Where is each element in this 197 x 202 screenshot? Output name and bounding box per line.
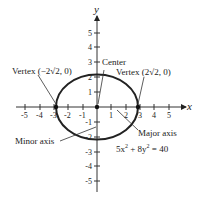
- x-axis-label: x: [186, 100, 192, 112]
- center-point: [95, 105, 99, 109]
- svg-text:1: 1: [88, 88, 92, 97]
- x-tick-labels: -5 -4 -3 -2 -1 1 2 3 4 5: [21, 111, 171, 120]
- center-label: Center: [102, 57, 126, 67]
- svg-text:-4: -4: [36, 111, 43, 120]
- svg-text:-4: -4: [85, 162, 92, 171]
- minor-axis-label: Minor axis: [15, 136, 55, 146]
- svg-text:-2: -2: [64, 111, 71, 120]
- svg-text:-5: -5: [21, 111, 28, 120]
- svg-text:1: 1: [109, 111, 113, 120]
- equation-label: 5x2 + 8y2 = 40: [116, 143, 169, 154]
- svg-text:4: 4: [88, 43, 92, 52]
- major-axis-label: Major axis: [138, 128, 177, 138]
- svg-text:-3: -3: [85, 148, 92, 157]
- vertex-right-label: Vertex (2√2, 0): [116, 67, 171, 77]
- svg-text:5: 5: [167, 111, 171, 120]
- svg-text:3: 3: [138, 111, 142, 120]
- svg-text:-5: -5: [85, 177, 92, 186]
- ellipse-diagram: -5 -4 -3 -2 -1 1 2 3 4 5 5 4 3 2 1 -1 -2…: [0, 0, 197, 202]
- vertex-left-point: [54, 105, 58, 109]
- svg-text:4: 4: [152, 111, 156, 120]
- y-axis-label: y: [93, 3, 99, 15]
- svg-text:5: 5: [88, 29, 92, 38]
- svg-text:-1: -1: [85, 118, 92, 127]
- svg-text:3: 3: [88, 58, 92, 67]
- diagram-canvas: -5 -4 -3 -2 -1 1 2 3 4 5 5 4 3 2 1 -1 -2…: [0, 0, 197, 202]
- vertex-left-label: Vertex (−2√2, 0): [12, 66, 72, 76]
- vertex-right-point: [136, 105, 140, 109]
